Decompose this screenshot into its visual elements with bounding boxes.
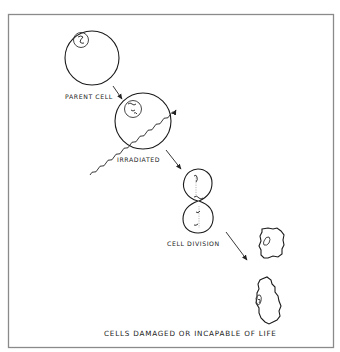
label-irradiated: IRRADIATED	[117, 156, 160, 163]
diagram-frame	[9, 15, 334, 348]
label-parent-cell: PARENT CELL	[65, 93, 113, 100]
label-cells-damaged: CELLS DAMAGED OR INCAPABLE OF LIFE	[104, 329, 277, 338]
label-cell-division: CELL DIVISION	[167, 240, 220, 247]
radiation-cell-diagram: PARENT CELL IRRADIATED CELL DIVISION CEL…	[0, 0, 340, 352]
